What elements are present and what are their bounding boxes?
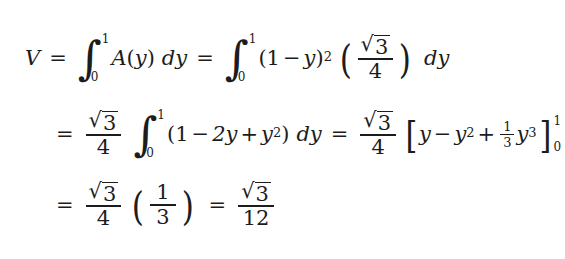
fraction-numerator: 1 [153,182,172,204]
fraction-sqrt3-over-4-line2: √ 3 4 [86,110,122,157]
big-paren-open-1: ( [340,43,352,75]
integral-upper-limit: 1 [102,33,110,45]
poly-constant: 1 [175,124,188,145]
radical-sign: √ [89,110,102,131]
equals-sign-6: = [209,195,227,216]
fraction-denominator: 12 [240,207,273,229]
differential-y-3: y [310,124,322,145]
fraction-denominator: 4 [366,60,385,82]
equation-line-1: V = ∫ 1 0 A ( y ) d y = ∫ 1 0 ( 1 − [0,20,565,96]
big-bracket-close: ] [539,120,551,150]
poly-exponent-2: 2 [273,126,281,139]
paren-open-2: ( [258,48,266,69]
radical-sign: √ [89,181,102,202]
differential-y-2: y [437,48,449,69]
equals-sign-1: = [49,48,67,69]
plus-sign-1: + [240,124,258,145]
fraction-denominator: 4 [369,136,388,158]
evaluation-lower-limit: 0 [553,141,561,153]
integral-lower-limit: 0 [91,71,99,83]
equals-sign-3: = [56,124,74,145]
paren-open-1: ( [127,48,135,69]
variable-V: V [25,48,40,69]
big-paren-close-1: ) [399,43,411,75]
differential-d-1: d [162,48,175,69]
radicand: 3 [255,182,271,205]
integral-2: ∫ 1 0 [225,36,250,80]
variable-y-1: y [135,48,147,69]
fraction-sqrt3-over-4-line3: √ 3 4 [86,181,122,228]
exponent-2: 2 [324,50,332,63]
equals-sign-5: = [56,195,74,216]
minus-sign-3: − [434,124,452,145]
poly-term-2y: 2y [212,124,237,145]
integral-3: ∫ 1 0 [133,112,158,156]
anti-exponent-2: 2 [466,126,474,139]
fraction-numerator: √ 3 [86,110,122,134]
sqrt-3: √ 3 [363,110,393,133]
anti-term-y: y [419,124,431,145]
radicand: 3 [102,111,118,134]
anti-term-y3: y [516,124,528,145]
equals-sign-2: = [196,48,214,69]
equation-line-3: = √ 3 4 ( 1 3 ) = √ 3 [0,172,565,238]
paren-close-3: ) [281,124,289,145]
anti-exponent-3: 3 [528,126,536,139]
anti-term-y2: y [454,124,466,145]
radicand: 3 [377,111,393,134]
big-paren-open-2: ( [132,190,144,222]
radical-sign: √ [361,34,374,55]
fraction-numerator: √ 3 [358,34,394,58]
equals-sign-4: = [331,124,349,145]
evaluation-limits: 1 0 [553,116,561,152]
fraction-one-third: 1 3 [150,182,176,227]
function-A: A [111,48,126,69]
fraction-one-third-inline: 1 3 [500,120,514,149]
fraction-numerator: √ 3 [86,181,122,205]
integral-lower-limit: 0 [238,71,246,83]
fraction-numerator: √ 3 [360,110,396,134]
fraction-denominator: 3 [153,206,172,228]
sqrt-3: √ 3 [89,181,119,204]
paren-close-1: ) [147,48,155,69]
fraction-sqrt3-over-4: √ 3 4 [358,34,394,81]
paren-close-2: ) [315,48,323,69]
radical-sign: √ [363,110,376,131]
fraction-result-sqrt3-over-12: √ 3 12 [238,181,274,228]
minus-sign-2: − [192,124,210,145]
sqrt-3: √ 3 [241,181,271,204]
evaluation-upper-limit: 1 [553,115,561,127]
radical-sign: √ [241,181,254,202]
differential-d-2: d [424,48,437,69]
sqrt-3: √ 3 [89,110,119,133]
radicand: 3 [102,182,118,205]
fraction-denominator: 3 [500,135,514,149]
big-bracket-open: [ [406,120,418,150]
variable-y-2: y [304,48,316,69]
sqrt-3: √ 3 [361,34,391,57]
big-paren-close-2: ) [182,190,194,222]
constant-one: 1 [267,48,280,69]
integral-upper-limit: 1 [157,109,165,121]
equation-line-2: = √ 3 4 ∫ 1 0 ( 1 − 2y + [0,96,565,172]
plus-sign-2: + [478,124,496,145]
fraction-denominator: 4 [94,207,113,229]
integral-1: ∫ 1 0 [78,36,103,80]
differential-y-1: y [175,48,187,69]
fraction-numerator: √ 3 [238,181,274,205]
differential-d-3: d [296,124,309,145]
math-derivation-sheet: V = ∫ 1 0 A ( y ) d y = ∫ 1 0 ( 1 − [0,0,565,259]
fraction-denominator: 4 [94,136,113,158]
integral-lower-limit: 0 [146,147,154,159]
paren-open-3: ( [167,124,175,145]
minus-sign-1: − [283,48,301,69]
poly-term-y: y [261,124,273,145]
fraction-sqrt3-over-4-line2b: √ 3 4 [360,110,396,157]
radicand: 3 [374,35,390,58]
fraction-numerator: 1 [500,120,514,134]
integral-upper-limit: 1 [249,33,257,45]
